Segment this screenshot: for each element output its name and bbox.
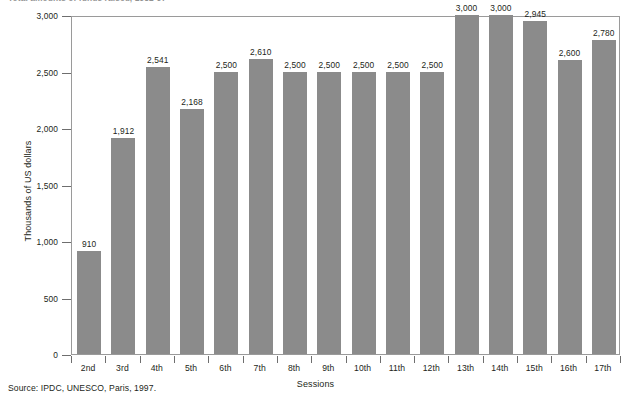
x-axis-tick-label: 14th [491,363,508,373]
bar-value-label: 2,500 [284,60,305,70]
y-axis-tick [62,355,71,356]
plot-area: 9101,9122,5412,1682,5002,6102,5002,5002,… [71,16,620,355]
bar-value-label: 3,000 [490,3,511,13]
bar-value-label: 3,000 [456,3,477,13]
bar: 2,500 [283,72,307,355]
x-axis-tick-label: 6th [219,363,231,373]
y-axis-tick-label: 1,000 [8,237,58,247]
y-axis-tick-label: 500 [8,294,58,304]
x-axis-tick [311,356,312,363]
y-axis-tick [62,242,71,243]
bar-value-label: 2,500 [422,60,443,70]
bar-value-label: 1,912 [113,126,134,136]
y-axis-tick [62,299,71,300]
x-axis-tick [243,356,244,363]
y-axis-tick [62,129,71,130]
bar-value-label: 2,500 [353,60,374,70]
bar-value-label: 2,600 [559,48,580,58]
x-axis-tick-label: 10th [354,363,371,373]
x-axis-tick [620,356,621,363]
bars-layer: 9101,9122,5412,1682,5002,6102,5002,5002,… [72,17,619,354]
bar-value-label: 2,610 [250,47,271,57]
x-axis-tick [448,356,449,363]
x-axis-tick-label: 16th [560,363,577,373]
x-axis-tick-label: 8th [288,363,300,373]
y-axis-tick-label: 1,500 [8,181,58,191]
bar: 2,500 [352,72,376,355]
y-axis-tick [62,73,71,74]
x-axis-tick-label: 9th [322,363,334,373]
bar: 2,500 [386,72,410,355]
x-axis-tick [414,356,415,363]
x-axis-tick-label: 15th [526,363,543,373]
bar-value-label: 2,541 [147,55,168,65]
bar-value-label: 2,945 [524,9,545,19]
bar-value-label: 910 [82,239,96,249]
bar: 1,912 [111,138,135,354]
bar: 910 [77,251,101,354]
bar: 2,500 [317,72,341,355]
x-axis-tick [483,356,484,363]
x-axis-tick [551,356,552,363]
bar-value-label: 2,780 [593,28,614,38]
figure-title: Total amounts of funds raised, 1982-97 [8,0,166,3]
x-axis-tick [71,356,72,363]
bar: 2,541 [146,67,170,354]
y-axis-tick [62,186,71,187]
y-axis-tick-label: 2,500 [8,68,58,78]
x-axis-tick [140,356,141,363]
y-axis-tick-label: 0 [8,350,58,360]
bar: 2,600 [558,60,582,354]
x-axis-tick-label: 11th [389,363,406,373]
bar-value-label: 2,500 [387,60,408,70]
x-axis-tick [517,356,518,363]
x-axis-tick [586,356,587,363]
bar-value-label: 2,168 [181,97,202,107]
x-axis-tick-label: 2nd [81,363,96,373]
x-axis-tick [380,356,381,363]
y-axis-title: Thousands of US dollars [23,111,33,271]
y-axis-tick-label: 2,000 [8,124,58,134]
x-axis-tick-label: 3rd [116,363,129,373]
bar: 3,000 [489,15,513,354]
bar: 3,000 [455,15,479,354]
source-note: Source: IPDC, UNESCO, Paris, 1997. [8,383,156,393]
x-axis-tick-label: 4th [151,363,163,373]
x-axis-tick [277,356,278,363]
bar-value-label: 2,500 [216,60,237,70]
x-axis-tick-label: 7th [254,363,266,373]
x-axis-tick-label: 13th [457,363,474,373]
x-axis-tick-label: 5th [185,363,197,373]
bar: 2,610 [249,59,273,354]
y-axis-tick-label: 3,000 [8,11,58,21]
bar: 2,500 [420,72,444,355]
x-axis-tick-label: 17th [594,363,611,373]
bar: 2,780 [592,40,616,354]
bar: 2,500 [214,72,238,355]
x-axis-tick [105,356,106,363]
bar: 2,945 [523,21,547,354]
x-axis-tick-label: 12th [423,363,440,373]
x-axis-tick [174,356,175,363]
x-axis-tick [346,356,347,363]
x-axis-tick [208,356,209,363]
bar: 2,168 [180,109,204,354]
y-axis-tick [62,16,71,17]
bar-value-label: 2,500 [319,60,340,70]
